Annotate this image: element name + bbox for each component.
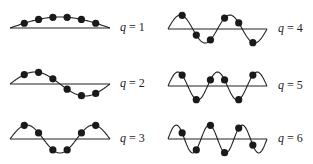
bead [249, 71, 256, 78]
bead [64, 14, 71, 21]
bead [207, 36, 214, 43]
bead [221, 149, 228, 156]
bead [21, 20, 28, 27]
bead [235, 96, 242, 103]
mode-panel-q3 [10, 122, 110, 154]
bead [179, 12, 186, 19]
bead [207, 122, 214, 129]
bead [193, 31, 200, 38]
equals-sign: = [126, 131, 139, 145]
bead [64, 146, 71, 153]
bead [49, 146, 56, 153]
bead [78, 92, 85, 99]
mode-number: 6 [297, 131, 303, 145]
mode-label-q2: q = 2 [120, 76, 145, 91]
bead [92, 20, 99, 27]
mode-panel-q5 [168, 71, 267, 103]
mode-label-q3: q = 3 [120, 131, 145, 146]
mode-label-q1: q = 1 [120, 20, 145, 35]
bead [64, 86, 71, 93]
normal-modes-diagram [0, 0, 313, 164]
bead [92, 122, 99, 129]
bead [193, 96, 200, 103]
mode-number: 5 [297, 78, 303, 92]
bead [179, 71, 186, 78]
bead [249, 141, 256, 148]
mode-number: 1 [139, 20, 145, 34]
bead [193, 146, 200, 153]
bead [235, 19, 242, 26]
bead [35, 69, 42, 76]
mode-panel-q4 [168, 12, 267, 47]
bead [221, 14, 228, 21]
mode-label-q6: q = 6 [278, 131, 303, 146]
bead [49, 75, 56, 82]
bead [207, 76, 214, 83]
equals-sign: = [126, 76, 139, 90]
bead [21, 122, 28, 129]
bead [221, 76, 228, 83]
bead [179, 129, 186, 136]
bead [35, 129, 42, 136]
mode-number: 4 [297, 21, 303, 35]
mode-number: 3 [139, 131, 145, 145]
equals-sign: = [284, 21, 297, 35]
bead [92, 90, 99, 97]
mode-panel-q1 [10, 14, 110, 28]
mode-label-q4: q = 4 [278, 21, 303, 36]
bead [235, 124, 242, 131]
bead [78, 16, 85, 23]
mode-label-q5: q = 5 [278, 78, 303, 93]
bead [35, 16, 42, 23]
mode-number: 2 [139, 76, 145, 90]
mode-panel-q2 [10, 69, 110, 100]
bead [249, 39, 256, 46]
bead [49, 14, 56, 21]
mode-panel-q6 [168, 122, 267, 156]
equals-sign: = [284, 78, 297, 92]
bead [78, 129, 85, 136]
bead [21, 71, 28, 78]
equals-sign: = [284, 131, 297, 145]
equals-sign: = [126, 20, 139, 34]
